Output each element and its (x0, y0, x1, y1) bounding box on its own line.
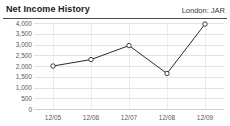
x-axis-labels: 12/0512/0612/0712/0812/09 (34, 113, 224, 125)
data-point-marker[interactable] (127, 43, 131, 47)
header-divider (3, 18, 227, 19)
x-axis-line (34, 109, 224, 110)
data-point-marker[interactable] (51, 64, 55, 68)
data-point-marker[interactable] (203, 22, 207, 26)
y-axis-tick-label: 2,500 (2, 52, 32, 59)
x-axis-tick-label: 12/08 (147, 113, 187, 122)
y-axis-tick-label: 500 (2, 95, 32, 102)
y-axis-labels: 05001,0001,5002,0002,5003,0003,5004,000 (0, 23, 32, 109)
y-axis-tick-label: 3,000 (2, 41, 32, 48)
x-axis-tick-label: 12/07 (109, 113, 149, 122)
y-axis-tick-label: 4,000 (2, 20, 32, 27)
data-point-marker[interactable] (89, 57, 93, 61)
x-axis-tick-label: 12/09 (185, 113, 225, 122)
widget-header: Net Income History London: JAR (0, 0, 230, 20)
x-axis-tick-label: 12/06 (71, 113, 111, 122)
plot-region (34, 23, 224, 109)
data-point-markers (51, 22, 207, 76)
y-axis-tick-label: 1,500 (2, 73, 32, 80)
x-axis-tick-label: 12/05 (33, 113, 73, 122)
net-income-line (53, 24, 205, 73)
y-axis-tick-label: 2,000 (2, 63, 32, 70)
data-point-marker[interactable] (165, 71, 169, 75)
header-location-label: London: JAR (182, 0, 225, 18)
line-series-svg (34, 23, 224, 109)
page-title: Net Income History (6, 0, 90, 16)
y-axis-tick-label: 0 (2, 106, 32, 113)
y-axis-tick-label: 1,000 (2, 84, 32, 91)
chart-area: 05001,0001,5002,0002,5003,0003,5004,000 … (0, 20, 230, 126)
y-axis-tick-label: 3,500 (2, 30, 32, 37)
net-income-history-widget: Net Income History London: JAR 05001,000… (0, 0, 230, 126)
